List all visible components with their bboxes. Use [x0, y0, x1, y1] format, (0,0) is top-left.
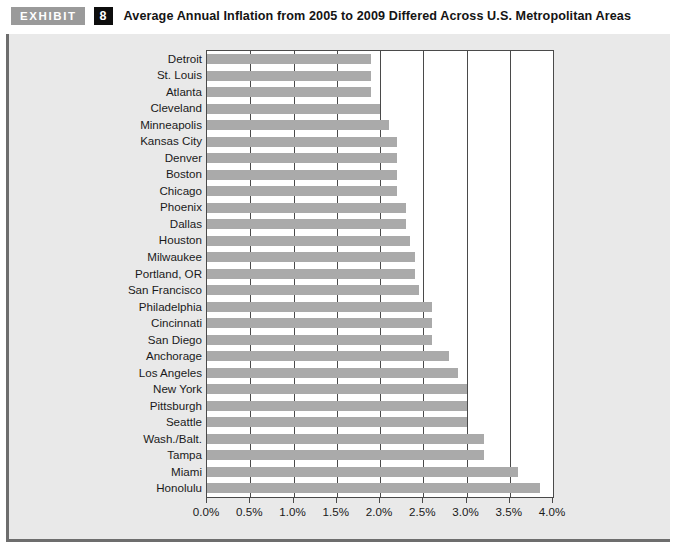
bar: [207, 417, 467, 427]
bar: [207, 87, 371, 97]
bar: [207, 252, 415, 262]
exhibit-title: Average Annual Inflation from 2005 to 20…: [124, 9, 631, 23]
bar-row: [207, 348, 553, 365]
y-axis-label: San Francisco: [12, 283, 202, 296]
x-axis-tick: [379, 497, 380, 503]
bar: [207, 203, 406, 213]
bar-row: [207, 134, 553, 151]
x-axis-tick: [293, 497, 294, 503]
y-axis-label: Minneapolis: [12, 118, 202, 131]
figure-background: DetroitSt. LouisAtlantaClevelandMinneapo…: [9, 34, 670, 539]
bar-row: [207, 233, 553, 250]
bar-row: [207, 249, 553, 266]
y-axis-labels: DetroitSt. LouisAtlantaClevelandMinneapo…: [9, 50, 202, 496]
y-axis-label: Phoenix: [12, 200, 202, 213]
y-axis-label: Seattle: [12, 415, 202, 428]
bar-row: [207, 398, 553, 415]
x-axis-label: 0.0%: [193, 505, 219, 518]
x-axis-tick: [249, 497, 250, 503]
bar-row: [207, 431, 553, 448]
y-axis-label: San Diego: [12, 333, 202, 346]
bar-row: [207, 480, 553, 497]
x-axis-label: 1.0%: [279, 505, 305, 518]
bar-row: [207, 68, 553, 85]
bar-row: [207, 101, 553, 118]
exhibit-badge: EXHIBIT: [11, 7, 85, 25]
bar-row: [207, 216, 553, 233]
bar: [207, 302, 432, 312]
bar: [207, 170, 397, 180]
bar: [207, 384, 467, 394]
bar: [207, 467, 518, 477]
x-axis-tick: [206, 497, 207, 503]
x-axis-tick: [552, 497, 553, 503]
bar-row: [207, 167, 553, 184]
bar: [207, 450, 484, 460]
x-axis-tick: [509, 497, 510, 503]
y-axis-label: Atlanta: [12, 85, 202, 98]
bar-row: [207, 414, 553, 431]
bar-row: [207, 282, 553, 299]
x-axis-label: 3.0%: [452, 505, 478, 518]
bar: [207, 434, 484, 444]
bar: [207, 351, 449, 361]
x-axis-label: 3.5%: [496, 505, 522, 518]
y-axis-label: Boston: [12, 167, 202, 180]
bar-row: [207, 447, 553, 464]
y-axis-label: Los Angeles: [12, 366, 202, 379]
x-axis-tick: [466, 497, 467, 503]
bar: [207, 335, 432, 345]
y-axis-label: Anchorage: [12, 349, 202, 362]
bar-row: [207, 365, 553, 382]
x-axis-tick: [336, 497, 337, 503]
y-axis-label: Kansas City: [12, 134, 202, 147]
bar: [207, 153, 397, 163]
bar: [207, 104, 380, 114]
y-axis-label: Dallas: [12, 217, 202, 230]
bar: [207, 483, 540, 493]
bar: [207, 318, 432, 328]
bar-row: [207, 183, 553, 200]
x-axis: 0.0%0.5%1.0%1.5%2.0%2.5%3.0%3.5%4.0%: [206, 497, 554, 531]
bar-row: [207, 150, 553, 167]
x-axis-tick: [422, 497, 423, 503]
x-axis-label: 2.5%: [409, 505, 435, 518]
bar: [207, 120, 389, 130]
y-axis-label: Pittsburgh: [12, 399, 202, 412]
x-axis-label: 0.5%: [236, 505, 262, 518]
bar: [207, 269, 415, 279]
bar-row: [207, 266, 553, 283]
bar-row: [207, 315, 553, 332]
x-axis-label: 2.0%: [366, 505, 392, 518]
bar-row: [207, 299, 553, 316]
bar-row: [207, 117, 553, 134]
y-axis-label: Detroit: [12, 52, 202, 65]
y-axis-label: Miami: [12, 465, 202, 478]
bar: [207, 401, 467, 411]
bar-chart: DetroitSt. LouisAtlantaClevelandMinneapo…: [9, 34, 670, 539]
bar: [207, 285, 419, 295]
bar: [207, 186, 397, 196]
bar-row: [207, 51, 553, 68]
plot-area: [206, 50, 554, 498]
figure-frame: DetroitSt. LouisAtlantaClevelandMinneapo…: [6, 34, 670, 542]
bar-row: [207, 464, 553, 481]
y-axis-label: Cincinnati: [12, 316, 202, 329]
bar: [207, 137, 397, 147]
y-axis-label: New York: [12, 382, 202, 395]
y-axis-label: Philadelphia: [12, 300, 202, 313]
y-axis-label: Cleveland: [12, 101, 202, 114]
bar-row: [207, 200, 553, 217]
y-axis-label: Wash./Balt.: [12, 432, 202, 445]
y-axis-label: Denver: [12, 151, 202, 164]
x-axis-label: 4.0%: [539, 505, 565, 518]
exhibit-header: EXHIBIT 8 Average Annual Inflation from …: [0, 0, 676, 32]
y-axis-label: St. Louis: [12, 68, 202, 81]
bar: [207, 219, 406, 229]
bar-row: [207, 381, 553, 398]
y-axis-label: Chicago: [12, 184, 202, 197]
exhibit-number-box: 8: [94, 7, 113, 25]
bar: [207, 71, 371, 81]
bar-row: [207, 332, 553, 349]
bar: [207, 368, 458, 378]
